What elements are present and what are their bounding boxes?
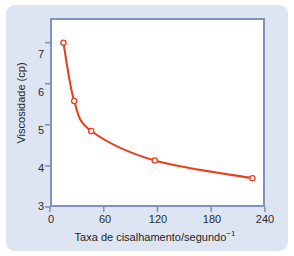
chart-figure: 7 6 5 4 3 0 60 120 180 240 Viscosidade (… bbox=[0, 0, 294, 256]
series-line-viscosidade bbox=[63, 43, 252, 179]
y-axis-ticks bbox=[45, 43, 50, 207]
data-point bbox=[250, 176, 255, 181]
data-point bbox=[152, 158, 157, 163]
data-point bbox=[89, 128, 94, 133]
data-point bbox=[72, 98, 77, 103]
data-point bbox=[61, 40, 66, 45]
plot-svg bbox=[0, 0, 294, 256]
x-axis-ticks bbox=[50, 207, 265, 212]
series-markers-viscosidade bbox=[61, 40, 255, 181]
